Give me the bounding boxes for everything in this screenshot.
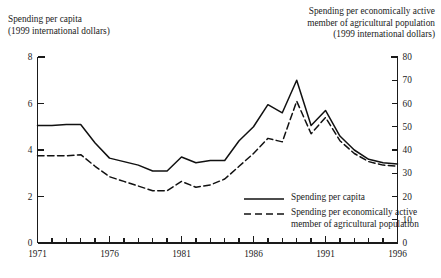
y-tick-label-left: 8: [28, 52, 33, 62]
plot-area: [0, 0, 441, 278]
x-tick-label: 1971: [28, 249, 47, 259]
chart-figure: Spending per capita (1999 international …: [0, 0, 441, 278]
legend-marks: [244, 199, 284, 214]
y-tick-label-left: 6: [28, 99, 33, 109]
y-tick-label-right: 60: [403, 99, 412, 109]
y-tick-label-right: 70: [403, 75, 412, 85]
x-tick-label: 1981: [172, 249, 191, 259]
y-tick-label-left: 0: [28, 238, 33, 248]
series-line-2: [38, 101, 398, 191]
x-tick-label: 1976: [100, 249, 119, 259]
y-tick-label-right: 20: [403, 192, 412, 202]
series-paths: [38, 80, 398, 190]
y-tick-label-left: 4: [28, 145, 33, 155]
x-tick-label: 1991: [316, 249, 335, 259]
y-tick-label-right: 50: [403, 122, 412, 132]
legend-label-1: Spending per capita: [291, 192, 365, 204]
x-tick-label: 1996: [388, 249, 407, 259]
x-tick-label: 1986: [244, 249, 263, 259]
y-tick-label-right: 40: [403, 145, 412, 155]
series-line-1: [38, 80, 398, 171]
y-tick-label-right: 30: [403, 168, 412, 178]
legend-label-2: Spending per economically active member …: [291, 207, 419, 231]
y-tick-label-right: 0: [403, 238, 408, 248]
y-tick-label-left: 2: [28, 192, 33, 202]
y-tick-label-right: 80: [403, 52, 412, 62]
